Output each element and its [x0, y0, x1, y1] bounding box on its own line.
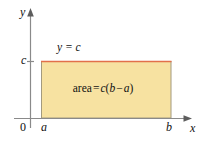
origin-label: 0 [20, 121, 26, 133]
x-axis-label: x [190, 122, 195, 134]
y-tick-label-c: c [21, 54, 26, 66]
area-formula-minus: − [115, 82, 124, 94]
y-axis-label: y [20, 6, 25, 18]
area-formula-close-paren: ) [129, 82, 133, 94]
math-figure: y x c 0 a b y = c area=c(b−a) [0, 0, 206, 143]
x-tick-label-a: a [41, 121, 47, 133]
y-axis-arrowhead [27, 8, 34, 17]
figure-canvas [0, 0, 206, 143]
x-tick-label-b: b [166, 121, 172, 133]
line-equation-label: y = c [57, 42, 81, 54]
area-formula-prefix: area [73, 82, 92, 94]
area-formula-label: area=c(b−a) [0, 83, 206, 95]
